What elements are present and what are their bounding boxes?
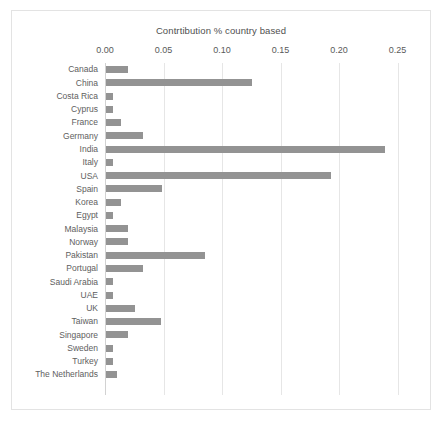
bar-row bbox=[105, 209, 421, 222]
bar bbox=[106, 66, 128, 73]
category-label: Canada bbox=[68, 65, 98, 74]
bar-row bbox=[105, 196, 421, 209]
bar-row bbox=[105, 355, 421, 368]
bar-row bbox=[105, 289, 421, 302]
bar bbox=[106, 199, 121, 206]
bar bbox=[106, 358, 113, 365]
category-label-row: Saudi Arabia bbox=[12, 275, 103, 288]
category-label: Pakistan bbox=[65, 251, 98, 260]
bar bbox=[106, 292, 113, 299]
bar-row bbox=[105, 315, 421, 328]
bar-row bbox=[105, 328, 421, 341]
category-label: Sweden bbox=[67, 344, 98, 353]
category-label-row: Korea bbox=[12, 196, 103, 209]
bar bbox=[106, 225, 128, 232]
category-label-row: Spain bbox=[12, 182, 103, 195]
bar-row bbox=[105, 275, 421, 288]
bar-row bbox=[105, 302, 421, 315]
bar bbox=[106, 172, 331, 179]
bar bbox=[106, 371, 117, 378]
category-label: Egypt bbox=[76, 211, 98, 220]
bar bbox=[106, 93, 113, 100]
figure-caption bbox=[0, 420, 442, 433]
category-label: Italy bbox=[82, 158, 98, 167]
category-label-row: Pakistan bbox=[12, 249, 103, 262]
category-label: Taiwan bbox=[72, 317, 98, 326]
bar bbox=[106, 331, 128, 338]
category-label: India bbox=[80, 145, 98, 154]
category-label-row: Singapore bbox=[12, 328, 103, 341]
category-label: Turkey bbox=[72, 357, 98, 366]
category-label-row: India bbox=[12, 143, 103, 156]
category-label-row: Italy bbox=[12, 156, 103, 169]
category-label: Spain bbox=[76, 185, 98, 194]
bar-row bbox=[105, 368, 421, 381]
bar-row bbox=[105, 76, 421, 89]
bar-row bbox=[105, 156, 421, 169]
bar bbox=[106, 265, 143, 272]
x-tick-label: 0.00 bbox=[96, 45, 114, 55]
bar bbox=[106, 238, 128, 245]
bar-row bbox=[105, 262, 421, 275]
category-label: Costa Rica bbox=[56, 92, 98, 101]
x-tick-label: 0.10 bbox=[213, 45, 231, 55]
category-label-row: Norway bbox=[12, 235, 103, 248]
x-tick-label: 0.15 bbox=[272, 45, 290, 55]
bar-row bbox=[105, 90, 421, 103]
bar-row bbox=[105, 169, 421, 182]
bar-row bbox=[105, 143, 421, 156]
category-label: France bbox=[72, 118, 98, 127]
category-label-row: USA bbox=[12, 169, 103, 182]
category-label: UAE bbox=[81, 291, 98, 300]
category-label-row: Costa Rica bbox=[12, 90, 103, 103]
category-label-row: Egypt bbox=[12, 209, 103, 222]
chart-title: Contrtibution % country based bbox=[12, 25, 430, 36]
category-label: UK bbox=[86, 304, 98, 313]
category-label-row: Cyprus bbox=[12, 103, 103, 116]
bar-row bbox=[105, 116, 421, 129]
bar bbox=[106, 132, 143, 139]
category-label-row: Sweden bbox=[12, 342, 103, 355]
bar bbox=[106, 146, 385, 153]
bar-row bbox=[105, 129, 421, 142]
bar bbox=[106, 185, 162, 192]
category-label: Korea bbox=[75, 198, 98, 207]
bar-row bbox=[105, 103, 421, 116]
bar-row bbox=[105, 235, 421, 248]
category-label: Germany bbox=[63, 132, 98, 141]
y-axis-category-labels: CanadaChinaCosta RicaCyprusFranceGermany… bbox=[12, 63, 103, 395]
category-label-row: UK bbox=[12, 302, 103, 315]
category-label-row: Taiwan bbox=[12, 315, 103, 328]
category-label-row: France bbox=[12, 116, 103, 129]
category-label: Portugal bbox=[66, 264, 98, 273]
category-label: China bbox=[76, 79, 98, 88]
bar-row bbox=[105, 182, 421, 195]
category-label-row: China bbox=[12, 76, 103, 89]
category-label: The Netherlands bbox=[35, 370, 98, 379]
category-label-row: Malaysia bbox=[12, 222, 103, 235]
bar bbox=[106, 252, 205, 259]
category-label: Malaysia bbox=[64, 225, 98, 234]
bar-row bbox=[105, 249, 421, 262]
bar bbox=[106, 159, 113, 166]
bar bbox=[106, 119, 121, 126]
category-label: Cyprus bbox=[71, 105, 98, 114]
x-tick-label: 0.20 bbox=[330, 45, 348, 55]
x-tick-label: 0.25 bbox=[389, 45, 407, 55]
category-label: Saudi Arabia bbox=[50, 278, 98, 287]
bar-rows bbox=[105, 63, 421, 395]
bar-row bbox=[105, 63, 421, 76]
plot-area bbox=[105, 63, 421, 395]
bar bbox=[106, 305, 135, 312]
bar bbox=[106, 278, 113, 285]
bar bbox=[106, 212, 113, 219]
category-label: USA bbox=[81, 172, 98, 181]
x-axis-tick-labels: 0.000.050.100.150.200.25 bbox=[12, 45, 430, 59]
bar bbox=[106, 106, 113, 113]
category-label-row: The Netherlands bbox=[12, 368, 103, 381]
bar bbox=[106, 318, 161, 325]
category-label-row: Germany bbox=[12, 129, 103, 142]
category-label-row: Canada bbox=[12, 63, 103, 76]
category-label: Norway bbox=[69, 238, 98, 247]
category-label: Singapore bbox=[59, 331, 98, 340]
